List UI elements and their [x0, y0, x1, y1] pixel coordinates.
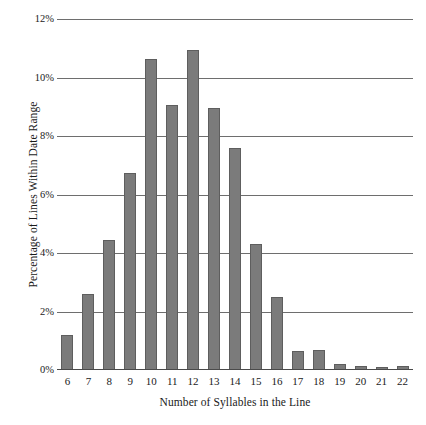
y-axis-tick-label: 4%	[28, 248, 54, 258]
bar-15	[250, 244, 262, 370]
bar-17	[292, 351, 304, 370]
bar-7	[82, 294, 94, 370]
bar-10	[145, 59, 157, 371]
bar-11	[166, 105, 178, 370]
bar-18	[313, 350, 325, 370]
y-axis-tick-label: 8%	[28, 131, 54, 141]
y-axis-tick-label: 10%	[28, 73, 54, 83]
bar-chart-figure: Percentage of Lines Within Date Range 0%…	[0, 0, 426, 425]
bar-16	[271, 297, 283, 370]
x-axis-title: Number of Syllables in the Line	[57, 396, 413, 408]
bar-6	[61, 335, 73, 370]
bar-12	[187, 50, 199, 370]
plot-area	[57, 19, 413, 370]
y-axis-tick-label: 2%	[28, 307, 54, 317]
x-axis-baseline	[57, 369, 413, 370]
y-axis-tick-label: 6%	[28, 190, 54, 200]
y-axis-tick-label: 12%	[28, 14, 54, 24]
bar-13	[208, 108, 220, 370]
bar-8	[103, 240, 115, 370]
x-axis-tick-label-group: 678910111213141516171819202122	[57, 374, 413, 390]
bar-9	[124, 173, 136, 370]
bar-14	[229, 148, 241, 370]
bars-layer	[57, 19, 413, 370]
y-axis-tick-label-group: 0%2%4%6%8%10%12%	[28, 19, 54, 370]
x-axis-tick-label: 22	[390, 374, 416, 388]
y-axis-tick-label: 0%	[28, 365, 54, 375]
